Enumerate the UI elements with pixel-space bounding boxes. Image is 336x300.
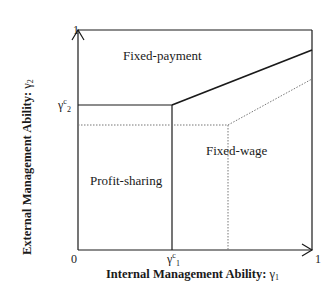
origin-label: 0 <box>71 252 77 266</box>
x-axis-label: Internal Management Ability: γ1 <box>106 267 279 282</box>
x-axis-label-text: Internal Management Ability: <box>106 267 270 281</box>
x-max-label: 1 <box>315 252 321 266</box>
region-label-fixed-wage: Fixed-wage <box>206 143 268 158</box>
x-critical-label: γc1 <box>166 251 180 268</box>
x-axis-symbol-sub: 1 <box>275 273 279 282</box>
region-label-profit-sharing: Profit-sharing <box>90 173 163 188</box>
y-axis-symbol-sub: 2 <box>26 79 35 83</box>
y-critical-label: γc2 <box>57 97 71 114</box>
y-max-label: 1 <box>73 23 79 37</box>
y-critical-sub: 2 <box>67 105 71 114</box>
region-label-fixed-payment: Fixed-payment <box>123 48 202 63</box>
dotted-diagonal-boundary <box>228 79 312 125</box>
contract-region-diagram: Fixed-payment Fixed-wage Profit-sharing … <box>0 0 336 300</box>
y-axis-label-text: External Management Ability: <box>20 89 34 255</box>
y-axis-label: External Management Ability: γ2 <box>20 79 35 255</box>
